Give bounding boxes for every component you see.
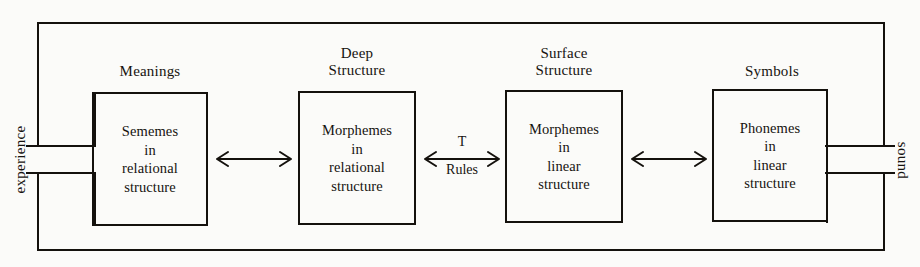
stage-caption-symbols: Symbols	[710, 63, 834, 80]
stage-caption-meanings: Meanings	[88, 63, 212, 80]
input-lead-lower	[26, 172, 96, 174]
diagram-canvas: experience sound Meanings Deep Structure…	[0, 0, 920, 267]
arrow-surface-symbols	[629, 149, 709, 169]
stage-box-meanings: Sememes in relational structure	[92, 92, 208, 226]
stage-box-surface-structure-text: Morphemes in linear structure	[529, 120, 599, 194]
arrow-meanings-deep-structure	[214, 149, 294, 169]
output-lead-upper	[825, 145, 895, 147]
output-label: sound	[894, 121, 911, 201]
input-label: experience	[12, 114, 29, 206]
stage-box-deep-structure-text: Morphemes in relational structure	[322, 121, 392, 195]
input-lead-upper	[26, 145, 96, 147]
frame-left-lower	[37, 172, 39, 251]
frame-bottom-rail	[37, 249, 885, 251]
frame-top-rail	[37, 22, 885, 24]
stage-box-surface-structure: Morphemes in linear structure	[505, 90, 623, 223]
stage-box-meanings-text: Sememes in relational structure	[122, 122, 178, 196]
stage-box-symbols-text: Phonemes in linear structure	[740, 119, 800, 193]
arrow-label-t: T	[422, 134, 502, 149]
frame-left-upper	[37, 22, 39, 147]
arrow-label-rules: Rules	[422, 162, 502, 177]
frame-right-lower	[883, 172, 885, 251]
output-lead-lower	[825, 172, 895, 174]
stage-box-deep-structure: Morphemes in relational structure	[298, 91, 416, 225]
stage-caption-surface-structure: Surface Structure	[502, 45, 626, 79]
stage-caption-deep-structure: Deep Structure	[295, 45, 419, 79]
stage-box-symbols: Phonemes in linear structure	[712, 89, 828, 222]
frame-right-upper	[883, 22, 885, 147]
